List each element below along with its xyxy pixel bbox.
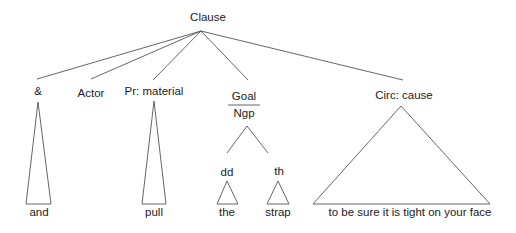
node-label-actor: Actor: [78, 87, 105, 99]
root-label-clause: Clause: [190, 11, 226, 23]
node-label-thing: th: [274, 165, 284, 177]
syntax-tree-diagram: Clause & and Actor Pr: material pull Goa…: [0, 0, 516, 233]
leaf-words-thing: strap: [265, 206, 291, 218]
node-label-circumstance: Circ: cause: [375, 89, 433, 101]
node-label-ngp: Ngp: [233, 107, 254, 119]
leaf-words-conjunction: and: [29, 206, 48, 218]
leaf-words-circumstance: to be sure it is tight on your face: [328, 206, 491, 218]
leaf-words-deictic: the: [219, 206, 235, 218]
node-label-process: Pr: material: [125, 85, 184, 97]
node-label-goal: Goal: [232, 90, 256, 102]
branch-clause-to-actor: [91, 31, 201, 79]
triangle-thing: [267, 181, 289, 204]
node-label-deictic: dd: [221, 166, 234, 178]
node-label-conjunction: &: [34, 85, 42, 97]
triangle-conjunction: [26, 102, 51, 204]
branch-ngp-to-dd: [227, 126, 247, 153]
branch-clause-to-and-marker: [37, 31, 201, 79]
leaf-words-process: pull: [145, 206, 163, 218]
branch-clause-to-goal: [201, 31, 248, 80]
triangle-deictic: [217, 181, 238, 204]
branch-ngp-to-th: [247, 126, 268, 153]
branch-clause-to-circumstance: [201, 31, 403, 80]
triangle-circumstance: [313, 106, 490, 204]
triangle-process: [142, 101, 166, 204]
